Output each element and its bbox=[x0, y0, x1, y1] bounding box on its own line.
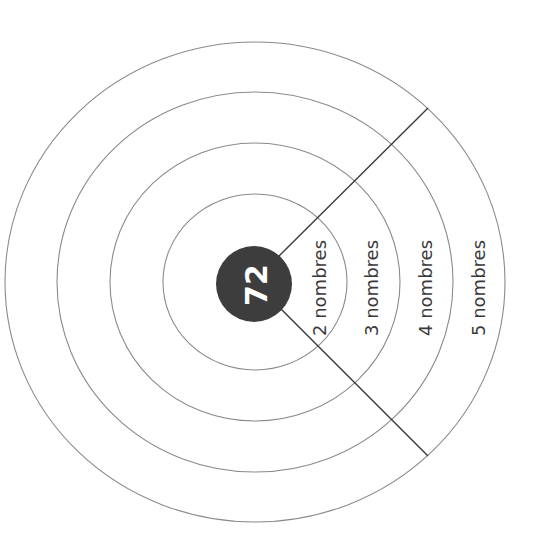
divider-upper bbox=[278, 108, 428, 257]
ring-label-3: 3 nombres bbox=[361, 240, 382, 336]
ring-label-2: 2 nombres bbox=[309, 240, 330, 336]
center-value: 72 bbox=[239, 264, 274, 306]
ring-label-4: 4 nombres bbox=[415, 240, 436, 336]
divider-lower bbox=[278, 306, 428, 456]
target-diagram: 72 2 nombres 3 nombres 4 nombres 5 nombr… bbox=[0, 0, 533, 559]
ring-label-5: 5 nombres bbox=[468, 240, 489, 336]
